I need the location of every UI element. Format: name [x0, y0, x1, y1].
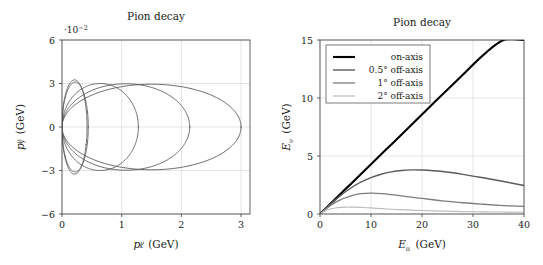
y-tick-label: 10 — [300, 93, 312, 104]
legend-label: 1° off-axis — [377, 78, 423, 88]
legend-label: on-axis — [390, 52, 423, 62]
x-tick-label: 2 — [178, 219, 184, 230]
momentum-plot: Pion decay·10−20123630−3−6pνx (GeV)pνy (… — [0, 0, 272, 265]
y-tick-label: 0 — [306, 209, 312, 220]
x-tick-label: 10 — [364, 219, 376, 230]
energy-panel: Pion decay010203040051015Eπ (GeV)Eν (GeV… — [272, 0, 543, 265]
y-tick-label: −3 — [41, 165, 55, 176]
y-axis-label: Eν (GeV) — [280, 103, 295, 151]
x-tick-label: 0 — [59, 219, 65, 230]
x-tick-label: 40 — [517, 219, 529, 230]
x-axis-label: Eπ (GeV) — [397, 238, 446, 253]
y-tick-label: 5 — [306, 151, 312, 162]
pion-decay-figure: Pion decay·10−20123630−3−6pνx (GeV)pνy (… — [0, 0, 543, 265]
x-tick-label: 3 — [238, 219, 244, 230]
x-tick-label: 20 — [415, 219, 427, 230]
x-tick-label: 30 — [466, 219, 478, 230]
y-axis-label: pνy (GeV) — [14, 104, 26, 150]
y-tick-label: 0 — [49, 122, 55, 133]
legend: on-axis0.5° off-axis1° off-axis2° off-ax… — [326, 45, 430, 103]
y-tick-label: −6 — [41, 209, 55, 220]
x-tick-label: 1 — [119, 219, 125, 230]
momentum-panel: Pion decay·10−20123630−3−6pνx (GeV)pνy (… — [0, 0, 272, 265]
x-tick-label: 0 — [316, 219, 322, 230]
left-axis-multiplier: ·10−2 — [64, 24, 88, 35]
y-tick-label: 3 — [49, 78, 55, 89]
legend-label: 2° off-axis — [377, 91, 423, 101]
energy-plot: Pion decay010203040051015Eπ (GeV)Eν (GeV… — [272, 0, 543, 265]
y-tick-label: 6 — [49, 35, 55, 46]
x-axis-label: pνx (GeV) — [133, 238, 178, 250]
right-plot-title: Pion decay — [393, 16, 451, 28]
left-plot-title: Pion decay — [127, 10, 185, 22]
legend-label: 0.5° off-axis — [368, 65, 423, 75]
y-tick-label: 15 — [300, 35, 312, 46]
